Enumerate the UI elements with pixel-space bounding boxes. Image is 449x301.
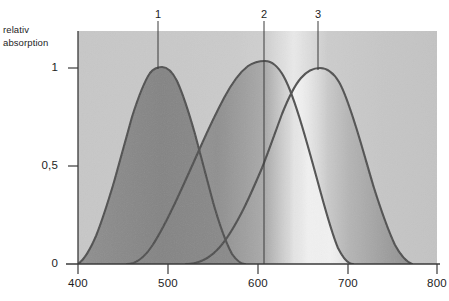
peak-marker-label-2: 2 bbox=[254, 8, 274, 20]
peak-marker-label-1: 1 bbox=[148, 8, 168, 20]
y-tick-label-0: 0 bbox=[36, 257, 58, 269]
x-tick-label-800: 800 bbox=[417, 277, 449, 289]
y-tick-label-0-5: 0,5 bbox=[26, 159, 58, 171]
x-tick-label-500: 500 bbox=[148, 277, 188, 289]
absorption-spectrum-chart bbox=[0, 0, 449, 301]
peak-marker-label-3: 3 bbox=[308, 8, 328, 20]
x-tick-label-600: 600 bbox=[238, 277, 278, 289]
x-tick-label-400: 400 bbox=[58, 277, 98, 289]
y-axis-label: relativ absorption bbox=[3, 24, 48, 49]
x-tick-label-700: 700 bbox=[328, 277, 368, 289]
y-tick-label-1: 1 bbox=[36, 61, 58, 73]
